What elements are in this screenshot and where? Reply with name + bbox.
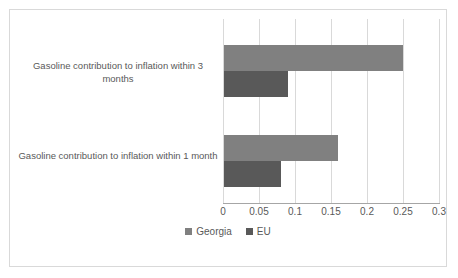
tick-label-0.2: 0.2 bbox=[352, 206, 382, 217]
gridline-0.3 bbox=[439, 19, 440, 203]
tick-label-0: 0 bbox=[208, 206, 238, 217]
value-axis-line bbox=[223, 203, 440, 204]
category-label-1-month: Gasoline contribution to inflation withi… bbox=[18, 149, 218, 162]
tick-label-0.25: 0.25 bbox=[388, 206, 418, 217]
tick-label-0.1: 0.1 bbox=[280, 206, 310, 217]
bar-georgia-cat0 bbox=[224, 135, 338, 161]
legend-item-eu[interactable]: EU bbox=[246, 226, 271, 237]
bar-eu-cat0 bbox=[224, 161, 281, 187]
tick-label-0.3: 0.3 bbox=[424, 206, 454, 217]
chart-container: Gasoline contribution to inflation withi… bbox=[9, 9, 447, 267]
legend-label: Georgia bbox=[196, 226, 232, 237]
gridline-0.25 bbox=[403, 19, 404, 203]
tick-label-0.15: 0.15 bbox=[316, 206, 346, 217]
legend-label: EU bbox=[257, 226, 271, 237]
tick-label-0.05: 0.05 bbox=[244, 206, 274, 217]
category-label-3-months: Gasoline contribution to inflation withi… bbox=[18, 59, 218, 85]
legend-swatch-icon-georgia bbox=[185, 228, 192, 235]
legend-swatch-icon-eu bbox=[246, 228, 253, 235]
plot-area bbox=[223, 19, 439, 203]
bar-georgia-cat1 bbox=[224, 45, 403, 71]
bar-eu-cat1 bbox=[224, 71, 288, 97]
chart-legend: GeorgiaEU bbox=[10, 226, 446, 237]
legend-item-georgia[interactable]: Georgia bbox=[185, 226, 232, 237]
